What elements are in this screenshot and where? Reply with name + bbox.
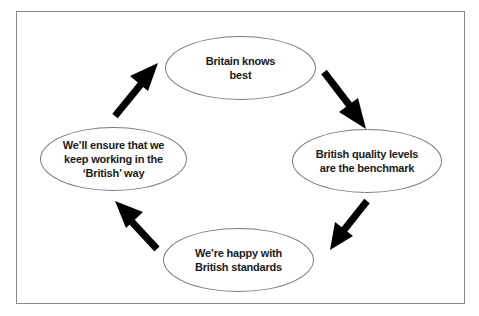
arrow-left-to-top-icon xyxy=(115,63,158,116)
node-britain-knows-best: Britain knows best xyxy=(165,36,316,100)
node-label: We’ll ensure that we keep working in the… xyxy=(63,138,165,180)
node-label: British quality levels are the benchmark xyxy=(316,147,419,175)
node-keep-working-british-way: We’ll ensure that we keep working in the… xyxy=(40,127,187,191)
arrow-top-to-right-icon xyxy=(324,72,366,129)
arrow-bottom-to-left-icon xyxy=(115,201,157,249)
node-label: We’re happy with British standards xyxy=(195,246,282,274)
node-happy-with-british-standards: We’re happy with British standards xyxy=(163,228,314,292)
arrow-right-to-bottom-icon xyxy=(330,201,367,250)
node-label: Britain knows best xyxy=(206,54,276,82)
node-british-quality-benchmark: British quality levels are the benchmark xyxy=(292,129,442,193)
